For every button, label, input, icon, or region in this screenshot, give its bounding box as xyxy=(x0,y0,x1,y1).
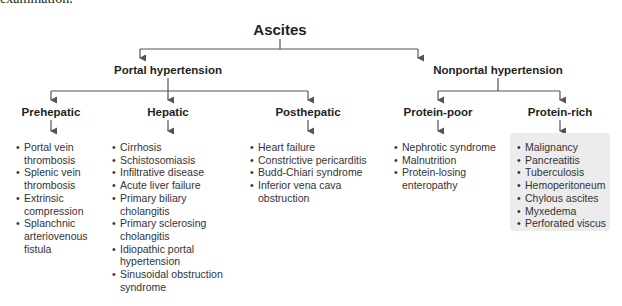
list-item: Heart failure xyxy=(250,141,375,154)
protein-poor-causes-list: Nephrotic syndrome Malnutrition Protein-… xyxy=(394,141,502,192)
node-nonportal-hypertension: Nonportal hypertension xyxy=(433,64,563,76)
list-item: Infiltrative disease xyxy=(112,166,232,179)
list-item: Splenic vein thrombosis xyxy=(16,166,94,191)
list-item: Sinusoidal obstruction syndrome xyxy=(112,268,232,293)
root-node-ascites: Ascites xyxy=(253,21,306,38)
node-protein-poor: Protein-poor xyxy=(404,106,473,118)
list-item: Hemoperitoneum xyxy=(517,179,612,192)
list-item: Pancreatitis xyxy=(517,154,612,167)
node-prehepatic: Prehepatic xyxy=(22,106,81,118)
hepatic-causes-list: Cirrhosis Schistosomiasis Infiltrative d… xyxy=(112,141,232,293)
list-item: Acute liver failure xyxy=(112,179,232,192)
list-item: Primary biliary cholangitis xyxy=(112,192,232,217)
list-item: Idiopathic portal hypertension xyxy=(112,243,232,268)
list-item: Portal vein thrombosis xyxy=(16,141,94,166)
list-item: Nephrotic syndrome xyxy=(394,141,502,154)
protein-rich-causes-list: Malignancy Pancreatitis Tuberculosis Hem… xyxy=(517,141,612,230)
list-item: Inferior vena cava obstruction xyxy=(250,179,375,204)
node-posthepatic: Posthepatic xyxy=(275,106,340,118)
posthepatic-causes-list: Heart failure Constrictive pericarditis … xyxy=(250,141,375,205)
list-item: Budd-Chiari syndrome xyxy=(250,166,375,179)
list-item: Chylous ascites xyxy=(517,192,612,205)
list-item: Splanchnic arteriovenous fistula xyxy=(16,217,94,255)
list-item: Tuberculosis xyxy=(517,166,612,179)
list-item: Extrinsic compression xyxy=(16,192,94,217)
list-item: Schistosomiasis xyxy=(112,154,232,167)
list-item: Primary sclerosing cholangitis xyxy=(112,217,232,242)
prehepatic-causes-list: Portal vein thrombosis Splenic vein thro… xyxy=(16,141,94,255)
list-item: Constrictive pericarditis xyxy=(250,154,375,167)
list-item: Protein-losing enteropathy xyxy=(394,166,502,191)
list-item: Myxedema xyxy=(517,205,612,218)
node-protein-rich: Protein-rich xyxy=(528,106,593,118)
node-hepatic: Hepatic xyxy=(147,106,189,118)
node-portal-hypertension: Portal hypertension xyxy=(114,64,222,76)
list-item: Malnutrition xyxy=(394,154,502,167)
list-item: Cirrhosis xyxy=(112,141,232,154)
list-item: Malignancy xyxy=(517,141,612,154)
list-item: Perforated viscus xyxy=(517,217,612,230)
